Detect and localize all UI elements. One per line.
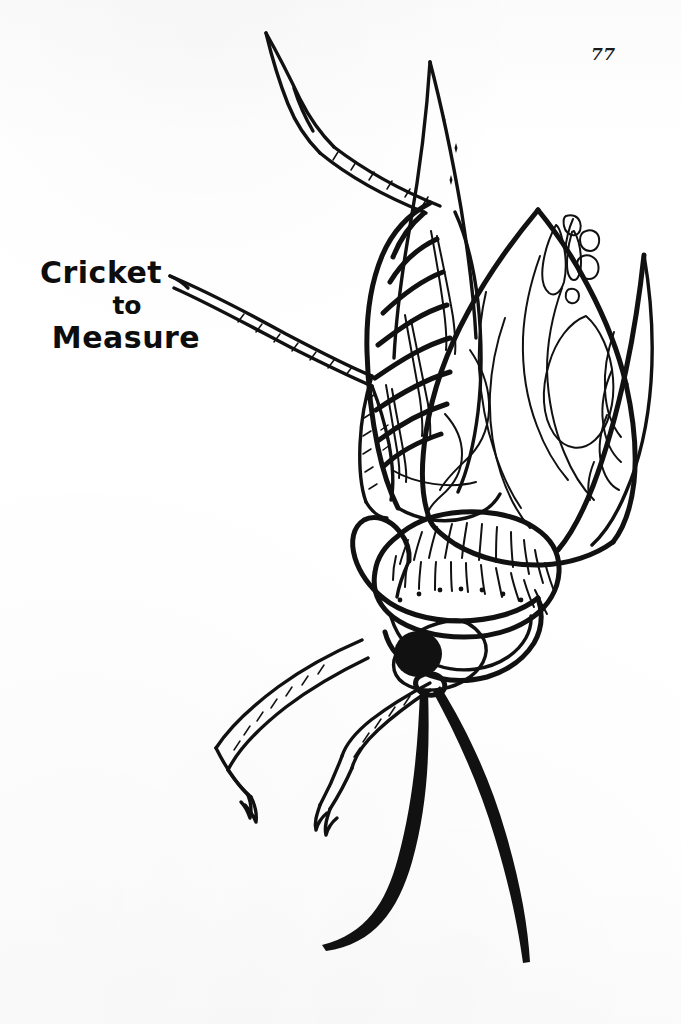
abdomen [367,203,500,521]
ovipositor [394,62,476,358]
cercus-upper [266,33,440,213]
cercus-left [170,276,372,386]
middle-leg [216,640,368,822]
hindwing [558,255,652,550]
antenna-right [433,686,530,963]
head [353,517,541,680]
cricket-illustration [0,0,681,1024]
page-canvas: 77 Cricket to Measure [0,0,681,1024]
antenna-left [322,690,429,951]
